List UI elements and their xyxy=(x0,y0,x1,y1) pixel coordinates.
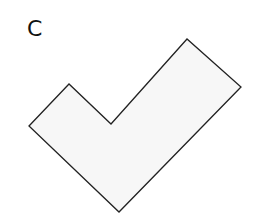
checkmark-shape xyxy=(29,39,241,212)
diagram-canvas xyxy=(0,0,270,215)
